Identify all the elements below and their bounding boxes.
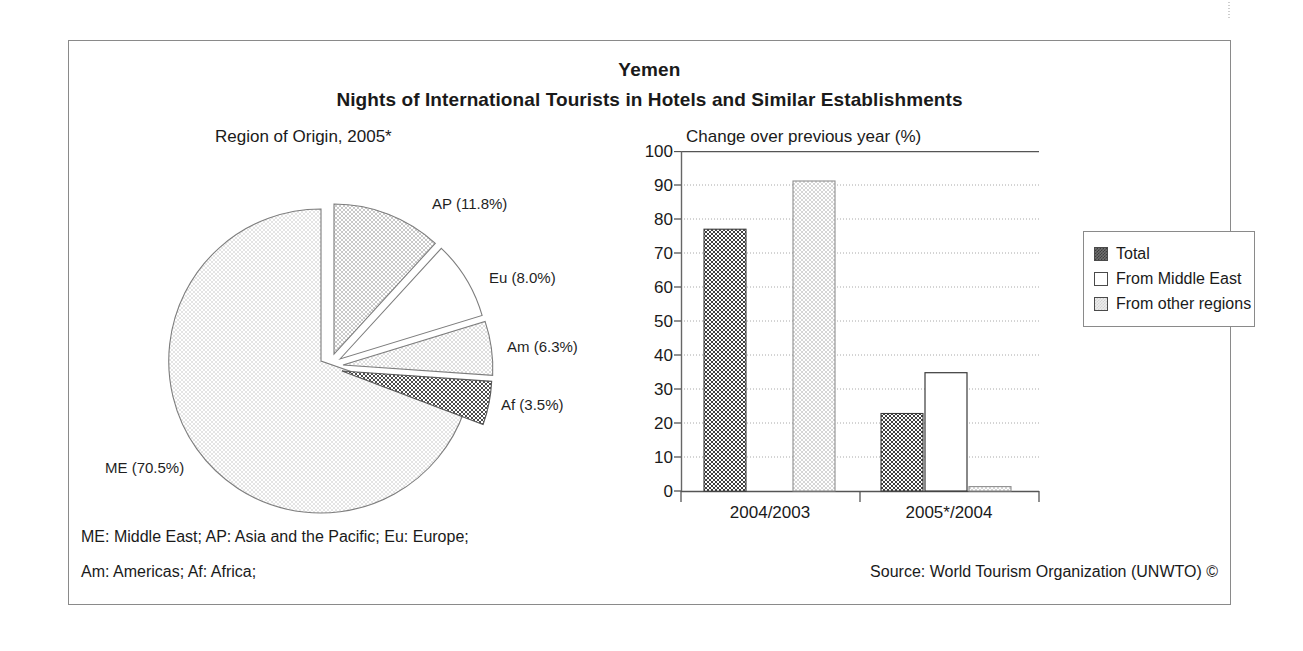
bar-y-tickmarks bbox=[674, 152, 681, 492]
bar-chart-svg bbox=[629, 151, 1059, 551]
bar-2005-other bbox=[969, 487, 1011, 491]
legend-item-middle-east[interactable]: From Middle East bbox=[1094, 266, 1244, 291]
pie-label-ap: AP (11.8%) bbox=[432, 195, 507, 212]
legend-swatch-middle-east-icon bbox=[1094, 272, 1108, 286]
x-tick-2005-2004: 2005*/2004 bbox=[906, 503, 993, 523]
bar-x-tickmarks bbox=[681, 491, 1039, 502]
page-title: Yemen bbox=[69, 59, 1230, 81]
legend-item-other-regions[interactable]: From other regions bbox=[1094, 291, 1244, 316]
pie-label-eu: Eu (8.0%) bbox=[489, 269, 556, 286]
footnote-line-2: Am: Americas; Af: Africa; bbox=[81, 563, 256, 581]
bar-2005-total bbox=[881, 414, 923, 492]
x-tick-2004-2003: 2004/2003 bbox=[730, 503, 810, 523]
page-subtitle: Nights of International Tourists in Hote… bbox=[69, 89, 1230, 111]
pie-label-me: ME (70.5%) bbox=[105, 459, 184, 476]
footnote-line-1: ME: Middle East; AP: Asia and the Pacifi… bbox=[81, 528, 469, 546]
legend-label-other-regions: From other regions bbox=[1116, 295, 1251, 313]
pie-label-af: Af (3.5%) bbox=[501, 396, 564, 413]
bar-chart: 100 90 80 70 60 50 40 30 20 10 0 bbox=[629, 151, 1059, 551]
legend-label-middle-east: From Middle East bbox=[1116, 270, 1241, 288]
bar-2004-other bbox=[793, 181, 835, 491]
bar-caption: Change over previous year (%) bbox=[686, 127, 921, 147]
legend-item-total[interactable]: Total bbox=[1094, 241, 1244, 266]
bar-2005-middle-east bbox=[925, 373, 967, 491]
bar-chart-legend: Total From Middle East From other region… bbox=[1083, 231, 1255, 327]
scan-artifact bbox=[1228, 2, 1230, 18]
chart-frame: Yemen Nights of International Tourists i… bbox=[68, 40, 1231, 605]
legend-swatch-total-icon bbox=[1094, 247, 1108, 261]
legend-swatch-other-regions-icon bbox=[1094, 297, 1108, 311]
legend-label-total: Total bbox=[1116, 245, 1150, 263]
source-credit: Source: World Tourism Organization (UNWT… bbox=[870, 563, 1218, 581]
bar-2004-total bbox=[704, 229, 746, 491]
pie-chart: AP (11.8%) Eu (8.0%) Am (6.3%) Af (3.5%)… bbox=[77, 151, 647, 541]
pie-caption: Region of Origin, 2005* bbox=[215, 127, 392, 147]
pie-label-am: Am (6.3%) bbox=[507, 338, 578, 355]
